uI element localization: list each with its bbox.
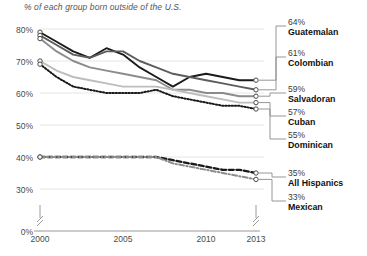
legend-label: Colombian — [288, 58, 333, 69]
legend-item-all-hispanics[interactable]: 35% All Hispanics — [288, 168, 343, 189]
legend-label: All Hispanics — [288, 178, 343, 189]
legend-label: Salvadoran — [288, 94, 335, 105]
chart-container: % of each group born outside of the U.S.… — [0, 0, 367, 256]
gridlines — [40, 29, 264, 189]
legend-item-guatemalan[interactable]: 64% Guatemalan — [288, 17, 338, 38]
legend-label: Guatemalan — [288, 27, 338, 38]
plot-area — [0, 0, 367, 256]
legend-value: 64% — [288, 17, 338, 27]
legend-connectors — [259, 26, 286, 201]
legend-item-mexican[interactable]: 33% Mexican — [288, 192, 323, 213]
legend-value: 57% — [288, 107, 315, 117]
axis-lines — [34, 205, 260, 232]
legend-item-cuban[interactable]: 57% Cuban — [288, 107, 315, 128]
legend-label: Mexican — [288, 202, 323, 213]
legend-value: 55% — [288, 130, 333, 140]
legend-label: Cuban — [288, 117, 315, 128]
legend-value: 35% — [288, 168, 343, 178]
legend-item-dominican[interactable]: 55% Dominican — [288, 130, 333, 151]
legend-item-salvadoran[interactable]: 59% Salvadoran — [288, 84, 335, 105]
legend-item-colombian[interactable]: 61% Colombian — [288, 48, 333, 69]
legend-label: Dominican — [288, 140, 333, 151]
legend-value: 33% — [288, 192, 323, 202]
legend-value: 59% — [288, 84, 335, 94]
legend-value: 61% — [288, 48, 333, 58]
